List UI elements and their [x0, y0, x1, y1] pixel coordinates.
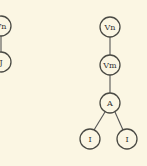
node-i-left: I	[80, 129, 100, 149]
edge-a-i-right	[115, 112, 123, 130]
node-vn: Vn	[100, 17, 120, 37]
node-left-j: J	[0, 52, 11, 72]
node-vm: Vm	[100, 55, 120, 75]
node-left-vn: Vn	[0, 16, 11, 36]
tree-diagram: Vn J Vn Vm A I I	[0, 0, 147, 166]
node-a: A	[100, 93, 120, 113]
node-i-right: I	[117, 129, 137, 149]
svg-text:Vn: Vn	[104, 23, 116, 32]
svg-text:J: J	[0, 58, 3, 67]
svg-text:A: A	[106, 99, 113, 108]
svg-text:Vn: Vn	[0, 22, 6, 31]
edge-a-i-left	[94, 112, 105, 130]
svg-text:I: I	[125, 135, 128, 144]
svg-text:Vm: Vm	[102, 61, 117, 70]
svg-text:I: I	[88, 135, 91, 144]
